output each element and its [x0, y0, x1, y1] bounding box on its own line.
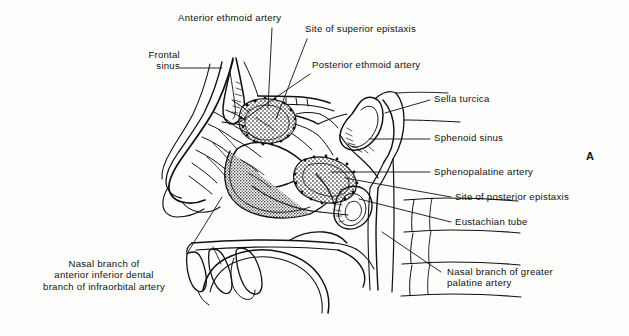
label-sphenopalatine-artery: Sphenopalatine artery	[434, 166, 533, 177]
tongue-region	[203, 250, 329, 313]
label-site-of-superior-epistaxis: Site of superior epistaxis	[305, 23, 416, 34]
label-site-of-posterior-epistaxis: Site of posterior epistaxis	[455, 191, 569, 202]
label-nasal-branch-of-anterior-inferior-dental-branch-of-infraorbital-artery: Nasal branch of anterior inferior dental…	[20, 258, 188, 292]
label-eustachian-tube: Eustachian tube	[455, 216, 528, 227]
panel-letter-a: A	[586, 150, 594, 162]
nose-profile	[162, 60, 233, 217]
label-frontal-sinus: Frontal sinus	[51, 49, 180, 72]
posterior-epistaxis-stipple	[294, 155, 359, 205]
leader-nasal-branch-infraorbital	[188, 197, 222, 252]
leader-eustachian-tube	[359, 199, 451, 222]
sella-turcica-region	[340, 92, 404, 162]
anatomical-figure-panel: Anterior ethmoid artery Site of superior…	[0, 0, 629, 336]
hard-palate-region	[187, 240, 356, 254]
label-anterior-ethmoid-artery: Anterior ethmoid artery	[178, 12, 281, 23]
posterior-pharyngeal-wall	[368, 159, 394, 292]
leader-sella-turcica	[385, 100, 430, 113]
label-posterior-ethmoid-artery: Posterior ethmoid artery	[312, 59, 420, 70]
label-sella-turcica: Sella turcica	[434, 93, 490, 104]
upper-teeth-region	[187, 247, 262, 305]
label-nasal-branch-of-greater-palatine-artery: Nasal branch of greater palatine artery	[447, 266, 553, 289]
label-sphenoid-sinus: Sphenoid sinus	[434, 132, 503, 143]
